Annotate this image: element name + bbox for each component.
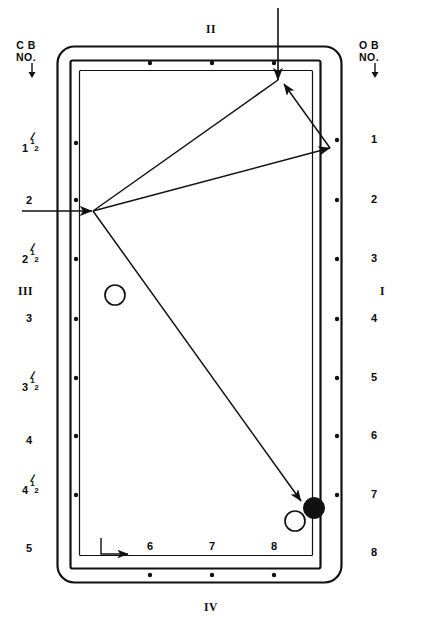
cb-header-down-arrow-icon	[26, 63, 38, 79]
diamond-top-1	[148, 61, 152, 65]
diamond-bottom-1	[148, 573, 152, 577]
side-marker-top: II	[206, 24, 216, 36]
diamond-left-5	[74, 376, 78, 380]
right-scale-item-2: 2	[371, 194, 377, 205]
diamond-right-5	[335, 376, 339, 380]
right-scale-item-7: 7	[371, 489, 377, 500]
left-scale-item-6: 4	[26, 435, 32, 446]
right-scale-item-5: 5	[371, 372, 377, 383]
cue-ball-bottom	[285, 511, 305, 531]
table-frame	[58, 47, 342, 583]
left-scale-whole-1: 1	[22, 142, 28, 154]
diamond-right-4	[335, 317, 339, 321]
left-scale-item-7: 41/2	[22, 481, 40, 497]
diamond-right-3	[335, 257, 339, 261]
left-frac-den-3: 2	[34, 256, 38, 264]
side-marker-left: III	[18, 286, 33, 298]
diamond-top-2	[210, 61, 214, 65]
diamond-top-3	[272, 61, 276, 65]
bottom-scale-item-7: 7	[209, 541, 215, 552]
left-scale-whole-7: 4	[22, 484, 28, 496]
diamond-left-1	[74, 141, 78, 145]
diamond-right-1	[335, 138, 339, 142]
right-scale-item-4: 4	[371, 313, 377, 324]
bottom-scale-item-8: 8	[271, 541, 277, 552]
left-scale-item-3: 21/2	[22, 250, 40, 266]
cb-header-line1: C B	[16, 39, 36, 51]
right-scale-item-1: 1	[371, 134, 377, 145]
left-scale-item-2: 2	[26, 195, 32, 206]
cue-ball-number-header: C B NO.	[16, 40, 36, 64]
diamond-left-2	[74, 198, 78, 202]
right-scale-item-3: 3	[371, 253, 377, 264]
right-scale-item-6: 6	[371, 430, 377, 441]
left-scale-item-1: 11/2	[22, 139, 40, 155]
left-scale-fraction-5: 1/2	[29, 381, 40, 393]
left-scale-whole-3: 2	[22, 253, 28, 265]
diamond-right-7	[335, 493, 339, 497]
table-outer-rail	[58, 47, 342, 583]
diamond-left-3	[74, 257, 78, 261]
cb-header-line2: NO.	[16, 51, 36, 63]
diamond-bottom-2	[210, 573, 214, 577]
left-frac-den-5: 2	[34, 384, 38, 392]
billiard-table-diagram	[0, 0, 422, 633]
left-frac-den-1: 2	[34, 145, 38, 153]
left-scale-whole-5: 3	[22, 381, 28, 393]
diamond-left-7	[74, 493, 78, 497]
right-scale-item-8: 8	[371, 547, 377, 558]
side-marker-bottom: IV	[204, 602, 218, 614]
diamond-right-2	[335, 198, 339, 202]
ob-header-down-arrow-icon	[369, 63, 381, 79]
object-ball-number-header: O B NO.	[359, 40, 379, 64]
ob-header-line1: O B	[359, 39, 379, 51]
cue-ball-left	[105, 285, 125, 305]
diamond-bottom-3	[272, 573, 276, 577]
left-scale-item-5: 31/2	[22, 378, 40, 394]
diamond-left-6	[74, 434, 78, 438]
left-scale-fraction-1: 1/2	[29, 142, 40, 154]
left-scale-item-4: 3	[26, 313, 32, 324]
bottom-scale-item-6: 6	[147, 541, 153, 552]
object-ball	[304, 498, 325, 519]
left-scale-fraction-7: 1/2	[29, 484, 40, 496]
left-frac-den-7: 2	[34, 487, 38, 495]
left-scale-fraction-3: 1/2	[29, 253, 40, 265]
ob-header-line2: NO.	[359, 51, 379, 63]
side-marker-right: I	[380, 286, 385, 298]
billiard-diagram-page: C B NO. O B NO. 11/2 2 21/2 3 31/2 4 41/…	[0, 0, 422, 633]
diamond-left-4	[74, 317, 78, 321]
left-scale-item-8: 5	[26, 543, 32, 554]
diamond-right-6	[335, 434, 339, 438]
